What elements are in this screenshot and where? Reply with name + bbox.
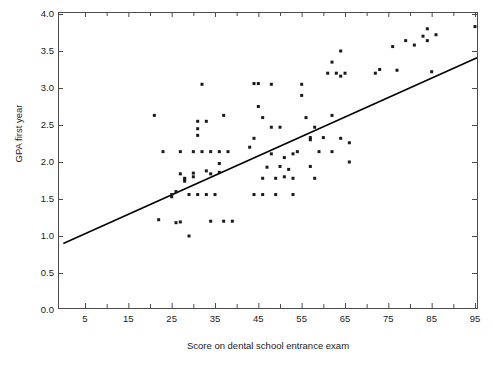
axis-ticks (58, 12, 477, 308)
y-tick-label: 1.5 (28, 194, 54, 204)
y-axis-tick-labels: 0.00.51.01.52.02.53.03.54.0 (26, 0, 54, 367)
y-tick-label: 2.5 (28, 120, 54, 130)
x-tick-label: 65 (330, 314, 360, 324)
x-tick-label: 75 (373, 314, 403, 324)
x-tick-label: 85 (417, 314, 447, 324)
y-tick-label: 4.0 (28, 9, 54, 19)
y-tick-label: 3.5 (28, 46, 54, 56)
y-tick-label: 0.5 (28, 268, 54, 278)
x-tick-label: 15 (113, 314, 143, 324)
plot-canvas (0, 0, 493, 367)
y-tick-label: 1.0 (28, 231, 54, 241)
x-tick-label: 25 (157, 314, 187, 324)
y-tick-label: 3.0 (28, 83, 54, 93)
axes-frame (59, 13, 478, 309)
x-tick-label: 45 (243, 314, 273, 324)
x-axis-title: Score on dental school entrance exam (58, 340, 478, 351)
x-tick-label: 55 (287, 314, 317, 324)
x-tick-label: 5 (70, 314, 100, 324)
y-axis-title: GPA first year (13, 74, 24, 194)
x-tick-label: 35 (200, 314, 230, 324)
x-tick-label: 95 (460, 314, 490, 324)
y-tick-label: 2.0 (28, 157, 54, 167)
y-tick-label: 0.0 (28, 305, 54, 315)
scatter-plot-figure: 0.00.51.01.52.02.53.03.54.0 515253545556… (0, 0, 493, 367)
